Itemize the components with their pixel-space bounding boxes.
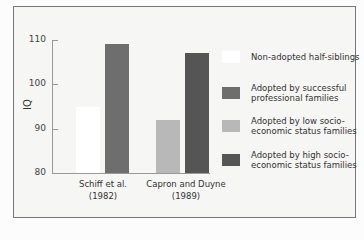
y-tick-100 [52, 84, 58, 85]
y-tick-label-110: 110 [22, 34, 46, 44]
legend-label: Adopted by successful professional famil… [251, 83, 364, 103]
y-tick-label-80: 80 [22, 167, 46, 177]
legend-swatch [222, 120, 240, 132]
legend-item-low-ses: Adopted by low socio-economic status fam… [222, 116, 364, 136]
category-label-line: Schiff et al. [70, 178, 136, 190]
bar-adopted-low-ses [156, 120, 180, 173]
bar-adopted-high-ses [185, 53, 209, 173]
y-tick-110 [52, 40, 58, 41]
y-axis [52, 40, 53, 174]
bar-non-adopted-half-siblings [76, 107, 100, 174]
category-label-line: Capron and Duyne [141, 178, 231, 190]
legend-label: Adopted by low socio-economic status fam… [251, 116, 364, 136]
y-tick-90 [52, 129, 58, 130]
legend-swatch [222, 51, 240, 63]
category-label-line: (1989) [141, 190, 231, 202]
category-label-line: (1982) [70, 190, 136, 202]
category-label-schiff: Schiff et al. (1982) [70, 178, 136, 202]
y-tick-label-90: 90 [22, 123, 46, 133]
legend-swatch [222, 154, 240, 166]
legend-swatch [222, 87, 240, 99]
x-axis [52, 173, 210, 174]
legend-item-successful-professional: Adopted by successful professional famil… [222, 83, 364, 103]
bar-adopted-successful-professional [105, 44, 129, 173]
legend-label: Adopted by high socio-economic status fa… [251, 150, 364, 170]
legend-item-non-adopted: Non-adopted half-siblings [222, 51, 364, 63]
y-tick-label-100: 100 [22, 78, 46, 88]
category-label-capron: Capron and Duyne (1989) [141, 178, 231, 202]
y-axis-label: IQ [22, 99, 33, 110]
legend-item-high-ses: Adopted by high socio-economic status fa… [222, 150, 364, 170]
legend-label: Non-adopted half-siblings [251, 52, 364, 62]
